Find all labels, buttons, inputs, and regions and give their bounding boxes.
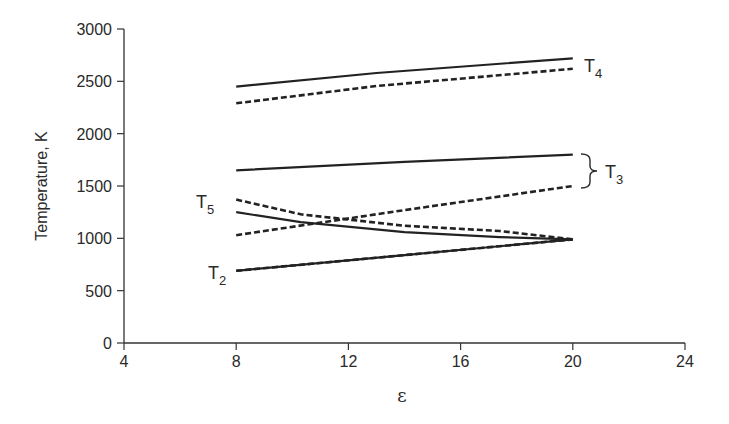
x-tick-label: 4 <box>120 353 129 370</box>
x-tick-label: 16 <box>452 353 470 370</box>
y-tick-label: 2000 <box>76 126 112 143</box>
series-t4-solid <box>236 58 573 86</box>
x-tick-label: 12 <box>340 353 358 370</box>
y-tick-label: 0 <box>103 335 112 352</box>
y-tick-label: 1500 <box>76 178 112 195</box>
series-t5-solid <box>236 212 573 239</box>
x-tick-label: 24 <box>676 353 694 370</box>
y-tick-label: 3000 <box>76 21 112 38</box>
series-t3-solid <box>236 155 573 171</box>
y-tick-label: 1000 <box>76 230 112 247</box>
label-t5: T5 <box>196 192 214 217</box>
line-chart: 0500100015002000250030004812162024 Tempe… <box>0 0 729 424</box>
series-t3-dashed <box>236 186 573 235</box>
brace-t3 <box>581 154 597 188</box>
x-axis-title: ε <box>397 385 406 406</box>
series-lines <box>236 58 573 270</box>
label-t3: T3 <box>605 162 623 187</box>
y-tick-label: 500 <box>85 283 112 300</box>
x-tick-label: 20 <box>564 353 582 370</box>
label-t4: T4 <box>584 56 602 81</box>
y-tick-label: 2500 <box>76 73 112 90</box>
series-t4-dashed <box>236 69 573 104</box>
x-tick-label: 8 <box>232 353 241 370</box>
label-t2: T2 <box>208 263 226 288</box>
y-axis-title: Temperature, K <box>33 131 50 241</box>
